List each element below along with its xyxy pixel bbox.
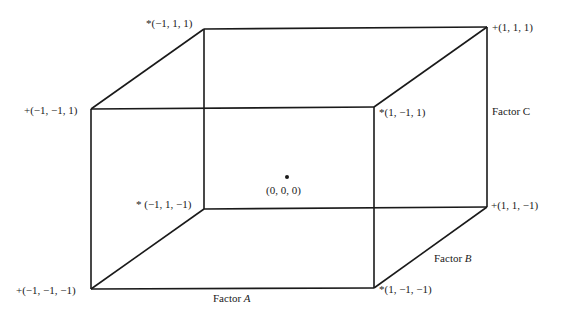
axis-label-factor-b-prefix: Factor <box>434 252 465 264</box>
axis-label-factor-c: Factor C <box>492 105 530 117</box>
edge-back-top <box>204 27 487 29</box>
axis-label-factor-a: Factor A <box>213 292 251 304</box>
edge-diag-bottom-right <box>374 207 487 288</box>
edge-diag-bottom-left <box>91 209 204 289</box>
vertex-label-v2: +(1, 1, 1) <box>492 21 533 33</box>
edge-front-bottom <box>91 288 374 289</box>
center-label: (0, 0, 0) <box>266 184 301 196</box>
edge-back-bottom <box>204 207 487 209</box>
edge-diag-top-right <box>374 27 487 107</box>
edge-diag-top-left <box>91 29 204 109</box>
axis-label-factor-b: Factor B <box>434 252 472 264</box>
vertex-label-v6: +(1, 1, −1) <box>491 199 538 211</box>
cube-diagram <box>0 0 562 319</box>
vertex-label-v8: *(1, −1, −1) <box>379 283 432 295</box>
axis-label-factor-b-name: B <box>465 252 472 264</box>
vertex-label-v4: *(1, −1, 1) <box>379 106 426 118</box>
axis-label-factor-a-name: A <box>244 292 251 304</box>
vertex-label-v1: *(−1, 1, 1) <box>146 17 193 29</box>
center-point <box>285 175 289 179</box>
axis-label-factor-a-prefix: Factor <box>213 292 244 304</box>
vertex-label-v3: +(−1, −1, 1) <box>24 104 77 116</box>
vertex-label-v7: +(−1, −1, −1) <box>16 284 76 296</box>
edge-front-top <box>91 107 374 109</box>
vertex-label-v5: * (−1, 1, −1) <box>136 198 191 210</box>
